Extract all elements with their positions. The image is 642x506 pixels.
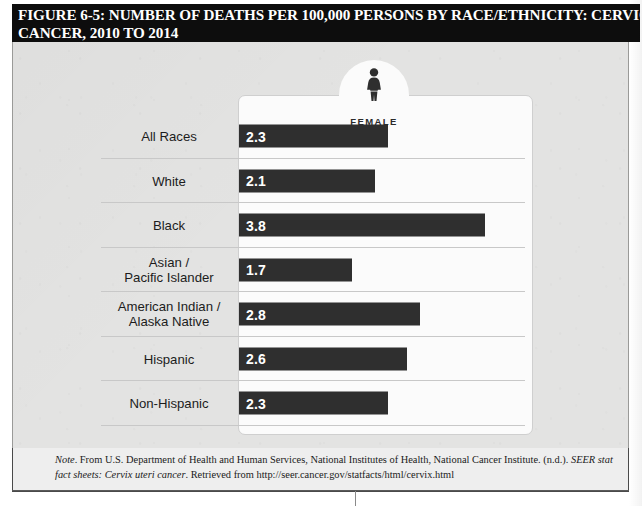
note-prefix: Note bbox=[55, 454, 75, 465]
bar-wrap-hispanic: 2.6 bbox=[239, 347, 407, 370]
page-bottom-rule bbox=[12, 490, 629, 491]
figure-note-box: Note. From U.S. Department of Health and… bbox=[12, 448, 629, 492]
figure-note-text: Note. From U.S. Department of Health and… bbox=[55, 453, 613, 482]
note-body-1: . From U.S. Department of Health and Hum… bbox=[75, 454, 571, 465]
bar-value-black: 3.8 bbox=[246, 217, 266, 233]
bar-value-white: 2.1 bbox=[246, 173, 266, 189]
bar-value-all-races: 2.3 bbox=[246, 128, 266, 144]
category-label-black: Black bbox=[101, 218, 237, 233]
figure-panel: FEMALE All Races 2.3 White bbox=[12, 42, 629, 490]
female-pictogram-icon bbox=[363, 68, 385, 102]
bar-row-american-indian-alaska-native: American Indian / Alaska Native 2.8 bbox=[13, 292, 630, 337]
bar-white: 2.1 bbox=[239, 169, 375, 192]
bar-american-indian-alaska-native: 2.8 bbox=[239, 303, 420, 326]
gridline bbox=[101, 425, 525, 426]
bar-rows: All Races 2.3 White 2.1 bbox=[13, 114, 630, 426]
bar-wrap-asian-pacific-islander: 1.7 bbox=[239, 258, 352, 281]
bar-row-black: Black 3.8 bbox=[13, 203, 630, 248]
note-source-title-2: Cervix uteri cancer bbox=[105, 469, 186, 480]
bar-black: 3.8 bbox=[239, 214, 485, 237]
bar-row-all-races: All Races 2.3 bbox=[13, 114, 630, 159]
bar-all-races: 2.3 bbox=[239, 125, 388, 148]
bar-row-hispanic: Hispanic 2.6 bbox=[13, 337, 630, 382]
category-label-asian-pacific-islander: Asian / Pacific Islander bbox=[101, 255, 237, 285]
bar-non-hispanic: 2.3 bbox=[239, 392, 388, 415]
bar-wrap-black: 3.8 bbox=[239, 214, 485, 237]
bar-hispanic: 2.6 bbox=[239, 347, 407, 370]
bar-value-asian-pacific-islander: 1.7 bbox=[246, 262, 266, 278]
bar-value-american-indian-alaska-native: 2.8 bbox=[246, 306, 266, 322]
bar-row-non-hispanic: Non-Hispanic 2.3 bbox=[13, 381, 630, 426]
bar-wrap-american-indian-alaska-native: 2.8 bbox=[239, 303, 420, 326]
bar-row-asian-pacific-islander: Asian / Pacific Islander 1.7 bbox=[13, 248, 630, 293]
category-label-american-indian-alaska-native: American Indian / Alaska Native bbox=[101, 299, 237, 329]
bar-asian-pacific-islander: 1.7 bbox=[239, 258, 352, 281]
page-edge-shadow bbox=[629, 0, 642, 506]
page-bottom-tick bbox=[355, 491, 356, 506]
bar-value-non-hispanic: 2.3 bbox=[246, 395, 266, 411]
figure-title-line-1: FIGURE 6-5: NUMBER OF DEATHS PER 100,000… bbox=[18, 6, 640, 24]
figure-title-band: FIGURE 6-5: NUMBER OF DEATHS PER 100,000… bbox=[12, 4, 640, 42]
figure-page: FIGURE 6-5: NUMBER OF DEATHS PER 100,000… bbox=[0, 0, 642, 506]
category-label-hispanic: Hispanic bbox=[101, 351, 237, 366]
category-label-all-races: All Races bbox=[101, 129, 237, 144]
bar-chart: FEMALE All Races 2.3 White bbox=[13, 42, 630, 490]
figure-title-line-2: CANCER, 2010 TO 2014 bbox=[18, 24, 640, 42]
bar-wrap-all-races: 2.3 bbox=[239, 125, 388, 148]
bar-wrap-white: 2.1 bbox=[239, 169, 375, 192]
bar-wrap-non-hispanic: 2.3 bbox=[239, 392, 388, 415]
note-body-2: . Retrieved from http://seer.cancer.gov/… bbox=[185, 469, 454, 480]
bar-value-hispanic: 2.6 bbox=[246, 351, 266, 367]
category-label-white: White bbox=[101, 173, 237, 188]
category-label-non-hispanic: Non-Hispanic bbox=[101, 396, 237, 411]
bar-row-white: White 2.1 bbox=[13, 159, 630, 204]
